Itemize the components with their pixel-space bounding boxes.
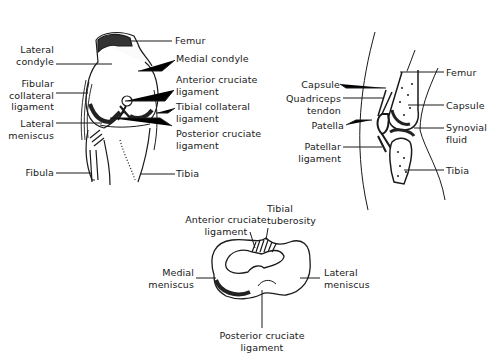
label-line: ligament [176,226,276,238]
label-line: Quadriceps [280,93,341,105]
label-line: meniscus [324,279,370,291]
front-knee-illustration [81,33,158,185]
label-lateral-meniscus-front: Lateral meniscus [4,118,54,141]
label-line: tendon [280,105,341,117]
label-line: Posterior cruciate [210,330,314,342]
label-line: fluid [446,134,487,146]
label-tibial-tuberosity: Tibial tuberosity [267,203,316,226]
label-line: Patellar [290,141,341,153]
label-line: tuberosity [267,215,316,227]
label-posterior-cruciate-front: Posterior cruciate ligament [176,128,261,151]
label-anterior-cruciate-top: Anterior cruciate ligament [176,214,276,237]
label-medial-meniscus: Medial meniscus [140,267,194,290]
label-line: Anterior cruciate [176,214,276,226]
label-line: meniscus [140,279,194,291]
label-line: Lateral [324,267,370,279]
label-posterior-cruciate-top: Posterior cruciate ligament [210,330,314,353]
label-patellar-ligament: Patellar ligament [290,141,341,164]
label-capsule-right: Capsule [446,100,485,112]
label-synovial-fluid: Synovial fluid [446,122,487,145]
label-line: Fibular [4,78,54,90]
label-line: ligament [176,113,250,125]
label-line: Lateral [4,118,54,130]
sagittal-knee-illustration [360,32,445,210]
label-capsule-left: Capsule [290,79,340,91]
label-medial-condyle: Medial condyle [176,53,249,65]
label-line: ligament [210,342,314,354]
knee-anatomy-illustrations [0,0,498,358]
label-line: Synovial [446,122,487,134]
label-tibia-front: Tibia [176,168,199,180]
label-lateral-condyle: Lateral condyle [4,44,54,67]
label-line: Tibial collateral [176,101,250,113]
label-line: collateral [4,90,54,102]
label-femur-front: Femur [175,35,205,47]
label-line: Tibial [267,203,316,215]
label-tibial-collateral: Tibial collateral ligament [176,101,250,124]
label-fibula: Fibula [4,167,54,179]
label-line: meniscus [4,130,54,142]
label-line: ligament [290,153,341,165]
label-line: ligament [176,140,261,152]
label-fibular-collateral-ligament: Fibular collateral ligament [4,78,54,113]
label-tibia-sagittal: Tibia [446,165,469,177]
label-lateral-meniscus-top: Lateral meniscus [324,267,370,290]
label-line: ligament [176,86,257,98]
label-line: Posterior cruciate [176,128,261,140]
tibial-plateau-illustration [212,238,310,299]
label-femur-sagittal: Femur [446,67,476,79]
label-anterior-cruciate-front: Anterior cruciate ligament [176,74,257,97]
label-line: condyle [4,56,54,68]
label-line: ligament [4,101,54,113]
label-line: Anterior cruciate [176,74,257,86]
label-line: Medial [140,267,194,279]
label-patella: Patella [290,120,344,132]
label-line: Lateral [4,44,54,56]
label-quadriceps-tendon: Quadriceps tendon [280,93,341,116]
